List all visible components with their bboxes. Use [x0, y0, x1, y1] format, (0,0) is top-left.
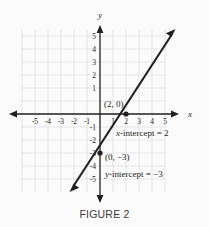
coordinate-plane-graph: x y -5 -4 -3 -2 -1 1 2 3 4 5 5 4 3 2 1 -…: [0, 0, 209, 227]
x-axis-label: x: [187, 109, 192, 119]
y-tick-label: -1: [90, 123, 96, 132]
line-upper-arrow: [166, 29, 176, 37]
y-tick-label: 1: [92, 84, 96, 93]
x-tick-label: 3: [137, 117, 141, 126]
x-intercept-value: -intercept = 2: [120, 128, 169, 138]
label-y-intercept-equation: y-intercept = −3: [104, 169, 163, 179]
y-tick-label: -2: [90, 136, 96, 145]
y-tick-label: -5: [90, 175, 96, 184]
figure-caption: FIGURE 2: [0, 208, 209, 220]
x-axis-right-arrow: [171, 111, 179, 118]
x-tick-label: 5: [163, 117, 167, 126]
y-tick-label: 3: [92, 58, 96, 67]
x-tick-label: -4: [45, 117, 51, 126]
x-tick-label: 2: [124, 117, 128, 126]
label-point-x-intercept: (2, 0): [104, 99, 124, 109]
y-tick-label: 4: [92, 45, 96, 54]
figure-container: x y -5 -4 -3 -2 -1 1 2 3 4 5 5 4 3 2 1 -…: [0, 0, 209, 227]
label-x-intercept-equation: x-intercept = 2: [115, 128, 169, 138]
point-x-intercept: [123, 111, 128, 116]
x-tick-label: -2: [71, 117, 77, 126]
x-axis-left-arrow: [9, 111, 17, 118]
y-tick-label: 5: [92, 32, 96, 41]
label-point-y-intercept: (0, −3): [105, 152, 130, 162]
x-tick-label: 4: [150, 117, 154, 126]
y-tick-label: 2: [92, 71, 96, 80]
x-tick-label: -3: [58, 117, 64, 126]
y-tick-label: -4: [90, 162, 96, 171]
y-axis-top-arrow: [97, 25, 104, 33]
y-intercept-value: -intercept = −3: [109, 169, 163, 179]
y-axis-label: y: [97, 10, 102, 20]
plotted-line: [70, 29, 176, 192]
point-y-intercept: [97, 150, 102, 155]
x-tick-label: -5: [32, 117, 38, 126]
y-axis-bottom-arrow: [97, 195, 104, 203]
